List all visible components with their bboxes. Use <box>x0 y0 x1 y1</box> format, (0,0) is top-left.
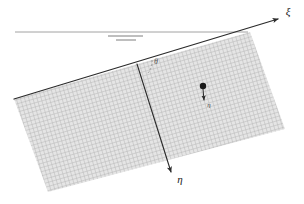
point-vector-label: η <box>207 101 211 109</box>
eta-axis-label: η <box>177 173 182 185</box>
point-marker-dot <box>200 83 206 89</box>
diagram-canvas: ξ η θ η <box>0 0 304 204</box>
figure-container: ξ η θ η <box>0 0 304 204</box>
shaded-surface-region <box>14 32 285 192</box>
xi-axis-label: ξ <box>286 5 291 18</box>
angle-label: θ <box>154 57 158 66</box>
